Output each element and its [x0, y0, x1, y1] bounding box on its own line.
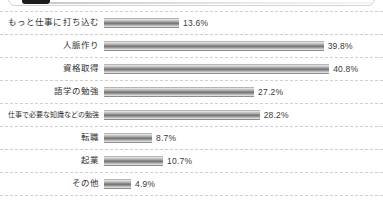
chart-bar [104, 133, 152, 143]
chart-bar-value: 39.8% [328, 41, 353, 51]
chart-row-bar-area: 4.9% [104, 173, 383, 195]
chart-row: 仕事で必要な知識などの勉強 28.2% [0, 104, 383, 127]
active-tab-swatch[interactable] [22, 0, 50, 4]
chart-bar-value: 27.2% [258, 87, 283, 97]
chart-bar-value: 4.9% [135, 179, 155, 189]
horizontal-bar-chart: もっと仕事に打ち込む 13.6% 人脈作り 39.8% 資格取得 40.8% 語… [0, 11, 383, 196]
chart-row-label: もっと仕事に打ち込む [0, 18, 104, 27]
chart-bar-value: 40.8% [333, 64, 358, 74]
chart-bar-value: 8.7% [156, 133, 176, 143]
chart-row-label: 転職 [0, 133, 104, 142]
chart-bar-value: 13.6% [183, 18, 208, 28]
chart-bar [104, 179, 131, 189]
chart-row-bar-area: 39.8% [104, 35, 383, 57]
chart-row-label: 仕事で必要な知識などの勉強 [0, 111, 104, 119]
chart-row: もっと仕事に打ち込む 13.6% [0, 11, 383, 35]
chart-row-bar-area: 28.2% [104, 104, 383, 126]
chart-row: 語学の勉強 27.2% [0, 81, 383, 104]
top-panel-underline [50, 2, 372, 4]
chart-row: 資格取得 40.8% [0, 58, 383, 81]
chart-bar [104, 87, 254, 97]
chart-bar-value: 28.2% [264, 110, 289, 120]
chart-row-label: 人脈作り [0, 41, 104, 50]
chart-row-bar-area: 8.7% [104, 127, 383, 149]
chart-bar [104, 110, 260, 120]
chart-row-bar-area: 27.2% [104, 81, 383, 103]
chart-row-label: その他 [0, 179, 104, 188]
chart-bar-value: 10.7% [167, 156, 192, 166]
chart-row-bar-area: 40.8% [104, 58, 383, 80]
chart-bar [104, 64, 329, 74]
chart-row-bar-area: 10.7% [104, 150, 383, 172]
chart-bar [104, 41, 324, 51]
chart-row: 転職 8.7% [0, 127, 383, 150]
chart-row-label: 資格取得 [0, 64, 104, 73]
chart-row-bar-area: 13.6% [104, 12, 383, 34]
chart-row: その他 4.9% [0, 173, 383, 196]
chart-bar [104, 156, 163, 166]
chart-bar [104, 18, 179, 28]
chart-row: 人脈作り 39.8% [0, 35, 383, 58]
chart-row-label: 起業 [0, 156, 104, 165]
chart-row: 起業 10.7% [0, 150, 383, 173]
chart-row-label: 語学の勉強 [0, 87, 104, 96]
